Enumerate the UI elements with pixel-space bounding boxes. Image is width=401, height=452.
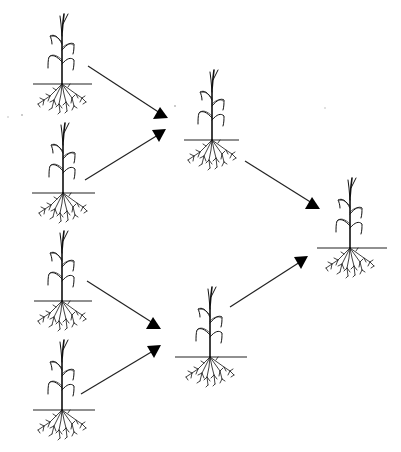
plant-parent-3 [34,231,92,331]
plant-parent-1 [33,14,92,114]
plant-final [317,178,387,278]
arrow-parent1-to-hybrid1 [88,66,168,119]
plant-hybrid-2 [175,287,247,387]
plant-hybrid-1 [184,70,239,170]
plant-parent-4 [33,340,95,440]
arrow-parent2-to-hybrid1 [85,129,166,180]
arrowhead-icon [146,317,161,329]
arrowhead-icon [153,107,168,119]
breeding-pedigree-diagram [0,0,401,452]
arrow-hybrid2-to-final [230,256,308,307]
scan-noise [7,105,326,118]
arrowhead-icon [294,256,308,269]
arrowhead-icon [305,197,320,209]
plant-parent-2 [32,123,95,223]
arrowhead-icon [147,345,161,358]
arrow-parent4-to-hybrid2 [81,345,161,394]
arrow-parent3-to-hybrid2 [87,281,161,329]
arrow-hybrid1-to-final [245,161,320,209]
arrowhead-icon [152,129,166,142]
